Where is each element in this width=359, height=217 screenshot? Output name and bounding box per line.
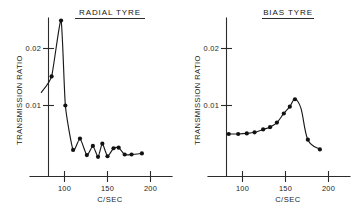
data-point <box>140 151 144 155</box>
x-tick-label-radial-1: 150 <box>101 184 114 193</box>
x-tick-label-radial-2: 200 <box>144 184 157 193</box>
x-axis-label-radial: C/SEC <box>97 195 123 204</box>
data-point <box>227 132 231 136</box>
data-point <box>268 125 272 129</box>
data-point <box>105 154 109 158</box>
y-axis-label-radial: TRANSMISSION RATIO <box>15 55 24 145</box>
data-point <box>63 103 67 107</box>
data-point <box>85 153 89 157</box>
data-point <box>50 74 54 78</box>
x-tick-label-bias-2: 200 <box>322 184 335 193</box>
figure-container: RADIAL TYRE 0.02 0.01 100 150 200 C/SEC … <box>0 0 359 217</box>
data-point <box>117 146 121 150</box>
y-tick-label-bias-1: 0.01 <box>204 101 219 110</box>
data-point <box>282 111 286 115</box>
data-point <box>59 18 63 22</box>
data-point <box>123 152 127 156</box>
data-point <box>96 155 100 159</box>
x-tick-label-bias-0: 100 <box>236 184 249 193</box>
data-point <box>78 136 82 140</box>
y-tick-label-bias-0: 0.02 <box>204 44 219 53</box>
panel-bias-tyre: BIAS TYRE 0.02 0.01 100 150 200 C/SEC TR… <box>193 8 350 204</box>
x-tick-label-bias-1: 150 <box>279 184 292 193</box>
data-curve-bias <box>229 99 320 149</box>
data-point <box>261 127 265 131</box>
data-point <box>293 97 297 101</box>
data-point <box>288 105 292 109</box>
data-point <box>318 147 322 151</box>
data-curve-radial <box>41 20 142 156</box>
x-axis-label-bias: C/SEC <box>275 195 301 204</box>
panel-title-radial: RADIAL TYRE <box>79 8 141 17</box>
panel-radial-tyre: RADIAL TYRE 0.02 0.01 100 150 200 C/SEC … <box>15 8 172 204</box>
data-points-radial <box>50 18 144 158</box>
y-tick-label-radial-1: 0.01 <box>26 101 41 110</box>
data-point <box>245 131 249 135</box>
panel-title-bias: BIAS TYRE <box>263 8 313 17</box>
data-point <box>252 130 256 134</box>
data-point <box>91 144 95 148</box>
data-point <box>236 132 240 136</box>
data-point <box>275 121 279 125</box>
data-point <box>129 152 133 156</box>
data-point <box>306 138 310 142</box>
y-tick-label-radial-0: 0.02 <box>26 44 41 53</box>
data-point <box>71 148 75 152</box>
x-tick-label-radial-0: 100 <box>58 184 71 193</box>
data-point <box>100 142 104 146</box>
y-axis-label-bias: TRANSMISSION RATIO <box>193 55 202 145</box>
data-point <box>111 146 115 150</box>
two-panel-chart-svg: RADIAL TYRE 0.02 0.01 100 150 200 C/SEC … <box>0 0 359 217</box>
